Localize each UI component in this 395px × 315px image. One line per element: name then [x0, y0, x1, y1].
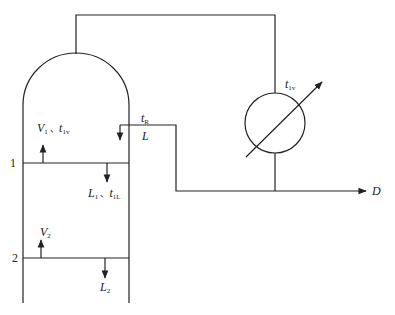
diagram-canvas	[0, 0, 395, 315]
tray-1-number: 1	[10, 157, 16, 169]
reflux-temp-label: tR	[141, 112, 149, 126]
tray-2-number: 2	[12, 252, 18, 264]
distillate-label: D	[372, 185, 381, 197]
condenser-temp-label: t1v	[285, 78, 295, 92]
liquid-2-label: L2	[100, 281, 110, 295]
vapor-2-label: V2	[40, 226, 51, 240]
reflux-flow-label: L	[142, 130, 149, 142]
reflux-line	[120, 125, 362, 191]
overhead-vapor-line	[76, 15, 275, 93]
liquid-1-label: L1 、t1L	[88, 187, 121, 201]
column-shell	[23, 53, 129, 303]
vapor-1-label: V1 、t1v	[37, 122, 69, 136]
condenser-icon	[245, 93, 305, 153]
condenser-adjust-arrow	[246, 82, 322, 157]
